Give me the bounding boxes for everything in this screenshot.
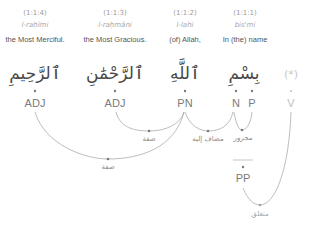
relation-label-mudaf-ilayh: مضاف إليه bbox=[192, 135, 223, 143]
pos-tag-adj: ADJ bbox=[25, 97, 46, 109]
word-transliteration: l-lahi bbox=[176, 21, 193, 29]
word-location: (1:1:4) bbox=[23, 9, 47, 17]
arc-mudaf-ilayh bbox=[185, 112, 233, 131]
arc-majrur bbox=[234, 112, 252, 130]
word-transliteration: l-raḥmāni bbox=[98, 21, 132, 29]
node-dot bbox=[251, 90, 253, 92]
pos-tag-v: V bbox=[287, 97, 294, 109]
word-location: (1:1:2) bbox=[173, 9, 197, 17]
arabic-word[interactable]: بِسْمِ bbox=[228, 63, 259, 83]
pos-tag-pn: PN bbox=[177, 97, 192, 109]
relation-label-majrur: مجرور bbox=[234, 134, 253, 142]
arabic-word[interactable]: ٱلرَّحِيمِ bbox=[9, 63, 61, 83]
arc-mutaalliq bbox=[243, 112, 291, 205]
pp-dot bbox=[242, 166, 244, 168]
hidden-word: (*) bbox=[284, 68, 298, 81]
phrase-node-pp: PP bbox=[236, 172, 251, 184]
arc-dot bbox=[148, 130, 151, 133]
word-gloss: In (the) name bbox=[223, 35, 268, 44]
arabic-word[interactable]: ٱلرَّحْمَٰنِ bbox=[86, 63, 144, 83]
arc-sifa-1 bbox=[116, 112, 184, 131]
word-location: (1:1:1) bbox=[233, 9, 257, 17]
word-gloss: (of) Allah, bbox=[169, 35, 201, 44]
arc-dot bbox=[107, 158, 110, 161]
word-transliteration: bis'mi bbox=[235, 21, 256, 29]
word-gloss: the Most Merciful. bbox=[5, 35, 64, 44]
pos-tag-p: P bbox=[248, 97, 255, 109]
pos-tag-n: N bbox=[232, 97, 240, 109]
arabic-word[interactable]: ٱللَّهِ bbox=[170, 63, 200, 83]
word-gloss: the Most Gracious. bbox=[84, 35, 147, 44]
arc-dot bbox=[241, 129, 244, 132]
node-dot bbox=[34, 90, 36, 92]
arc-dot bbox=[259, 204, 262, 207]
relation-label-sifa: صفة bbox=[142, 135, 155, 143]
relation-label-mutaalliq: متعلق bbox=[251, 210, 268, 218]
node-dot bbox=[235, 90, 237, 92]
node-dot bbox=[114, 90, 116, 92]
word-transliteration: l-raḥīmi bbox=[22, 21, 49, 29]
word-location: (1:1:3) bbox=[103, 9, 127, 17]
node-dot bbox=[184, 90, 186, 92]
pos-tag-adj: ADJ bbox=[105, 97, 126, 109]
relation-label-sifa: صفة bbox=[101, 163, 114, 171]
node-dot-hidden bbox=[290, 90, 292, 92]
arc-dot bbox=[207, 130, 210, 133]
arc-sifa-2 bbox=[35, 112, 184, 159]
